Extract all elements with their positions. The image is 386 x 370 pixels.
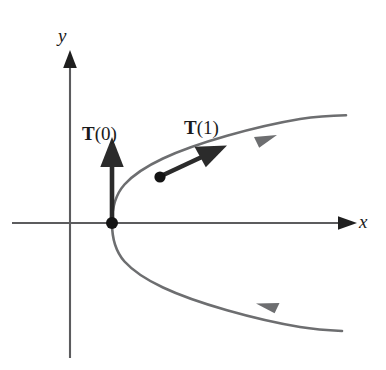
- tangent-vector-t1-label: T(1): [184, 118, 219, 137]
- tangent-vector-diagram: [0, 0, 386, 370]
- origin-point: [106, 217, 118, 229]
- y-axis-label: y: [58, 26, 66, 45]
- tangent-vector-t0-label-symbol: T: [82, 123, 95, 144]
- tangent-vector-t0-label-argument: (0): [95, 123, 117, 144]
- figure-background: [0, 0, 386, 370]
- tangent-vector-t1-label-argument: (1): [197, 117, 219, 138]
- tangent-vector-t0-label: T(0): [82, 124, 117, 143]
- tangent-vector-t1-label-symbol: T: [184, 117, 197, 138]
- curve-point-t1: [154, 171, 165, 182]
- x-axis-label: x: [359, 212, 367, 231]
